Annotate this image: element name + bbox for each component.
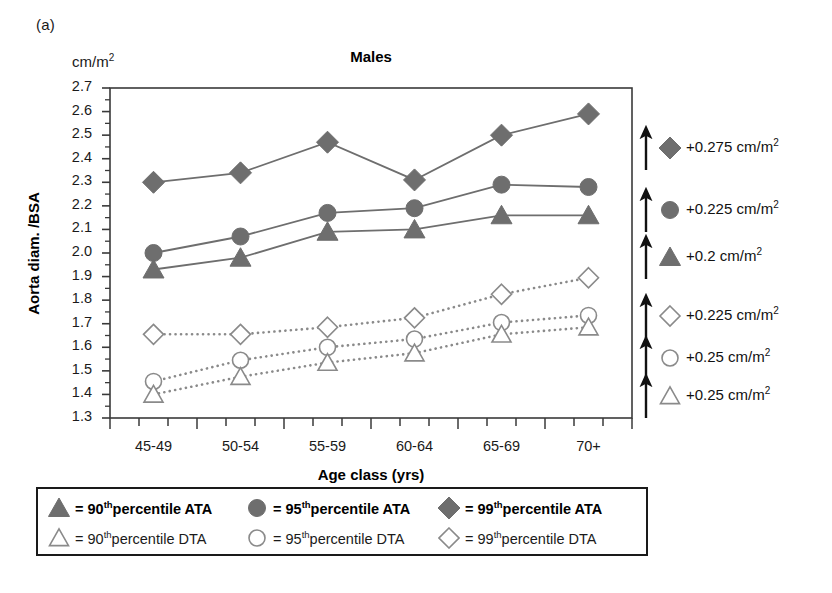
series-diamond-open xyxy=(144,268,599,345)
y-tick-label: 1.3 xyxy=(52,409,92,424)
y-tick-label: 2.3 xyxy=(52,173,92,188)
data-point-marker xyxy=(406,200,423,217)
legend-row-dta: = 90thpercentile DTA= 95thpercentile DTA… xyxy=(38,523,646,553)
annotation-label: +0.25 cm/m2 xyxy=(686,347,770,365)
x-tick-label: 55-59 xyxy=(283,438,373,454)
triangle-filled-glyph xyxy=(49,498,70,516)
diamond-open-glyph xyxy=(439,528,459,548)
series-line xyxy=(154,315,589,381)
y-tick-label: 2.2 xyxy=(52,197,92,212)
triangle-open-icon xyxy=(48,527,70,549)
legend-ordinal-suffix: th xyxy=(302,529,310,540)
annotation-arrows-layer xyxy=(646,132,681,418)
legend-percentile-number: 90 xyxy=(88,531,104,547)
annotation-marker-circle-filled xyxy=(662,202,679,219)
series-triangle-open xyxy=(144,318,598,402)
annotation-value: +0.225 cm/m xyxy=(686,306,773,323)
annotation-exponent: 2 xyxy=(773,305,779,316)
series-diamond-filled xyxy=(143,103,600,193)
y-tick-label: 2.4 xyxy=(52,150,92,165)
annotation-label: +0.2 cm/m2 xyxy=(686,246,762,264)
y-tick-label: 1.5 xyxy=(52,362,92,377)
legend-description: percentile ATA xyxy=(311,501,411,517)
data-point-marker xyxy=(230,248,251,266)
y-tick-label: 1.6 xyxy=(52,338,92,353)
annotation-marker-triangle-open xyxy=(661,387,680,404)
data-point-marker xyxy=(580,179,597,196)
data-point-marker xyxy=(231,368,250,385)
data-point-marker xyxy=(319,204,336,221)
legend-percentile-number: 95 xyxy=(286,501,302,517)
data-point-marker xyxy=(491,124,513,146)
y-tick-label: 2.0 xyxy=(52,244,92,259)
y-tick-label: 2.7 xyxy=(52,79,92,94)
data-point-marker xyxy=(232,228,249,245)
figure-root: (a) cm/m2 Males Aorta diam. /BSA Age cla… xyxy=(0,0,832,593)
x-tick-label: 60-64 xyxy=(370,438,460,454)
annotation-marker-triangle-filled xyxy=(660,247,681,265)
legend-description: percentile DTA xyxy=(502,531,597,547)
legend-ordinal-suffix: th xyxy=(494,499,503,510)
annotation-marker-diamond-filled xyxy=(659,137,681,159)
data-point-marker xyxy=(144,324,164,344)
annotation-3 xyxy=(646,300,680,338)
legend-ordinal-suffix: th xyxy=(104,499,113,510)
x-tick-label: 70+ xyxy=(544,438,634,454)
annotation-exponent: 2 xyxy=(765,347,771,358)
x-tick-label: 50-54 xyxy=(196,438,286,454)
circle-open-glyph xyxy=(249,530,265,546)
x-axis-ticks xyxy=(110,418,632,429)
circle-open-icon xyxy=(246,527,268,549)
annotation-5 xyxy=(646,380,680,418)
legend-equals: = xyxy=(75,531,88,547)
annotation-value: +0.25 cm/m xyxy=(686,386,765,403)
legend-item: = 95thpercentile ATA xyxy=(246,497,410,519)
legend-item: = 95thpercentile DTA xyxy=(246,527,404,549)
x-tick-label: 65-69 xyxy=(457,438,547,454)
data-point-marker xyxy=(578,103,600,125)
legend-description: percentile DTA xyxy=(112,531,207,547)
data-point-marker xyxy=(233,352,249,368)
y-axis-ticks xyxy=(102,88,110,418)
data-point-marker xyxy=(230,162,252,184)
legend-item: = 99thpercentile DTA xyxy=(438,527,596,549)
annotation-exponent: 2 xyxy=(773,137,779,148)
legend-item: = 99thpercentile ATA xyxy=(438,497,602,519)
data-point-marker xyxy=(317,131,339,153)
series-circle-open xyxy=(146,307,597,389)
x-tick-label: 45-49 xyxy=(109,438,199,454)
plot-frame xyxy=(110,88,632,418)
y-tick-label: 2.5 xyxy=(52,126,92,141)
legend-percentile-number: 99 xyxy=(478,531,494,547)
legend-percentile-number: 90 xyxy=(88,501,104,517)
legend-ordinal-suffix: th xyxy=(494,529,502,540)
diamond-filled-glyph xyxy=(438,497,460,519)
annotation-4 xyxy=(646,342,678,380)
annotation-marker-circle-open xyxy=(662,350,678,366)
legend-percentile-number: 95 xyxy=(286,531,302,547)
series-line xyxy=(154,278,589,335)
diamond-filled-icon xyxy=(438,497,460,519)
y-tick-label: 2.6 xyxy=(52,103,92,118)
triangle-open-glyph xyxy=(50,529,69,546)
annotation-exponent: 2 xyxy=(756,246,762,257)
data-point-marker xyxy=(231,324,251,344)
legend: = 90thpercentile ATA= 95thpercentile ATA… xyxy=(36,487,648,556)
data-point-marker xyxy=(405,344,424,361)
legend-equals: = xyxy=(465,531,478,547)
legend-item: = 90thpercentile DTA xyxy=(48,527,206,549)
series-line xyxy=(154,215,589,269)
legend-description: percentile ATA xyxy=(113,501,213,517)
circle-filled-icon xyxy=(246,497,268,519)
y-tick-label: 1.4 xyxy=(52,385,92,400)
annotation-value: +0.2 cm/m xyxy=(686,247,756,264)
annotation-marker-diamond-open xyxy=(660,306,680,326)
data-point-marker xyxy=(404,169,426,191)
legend-row-ata: = 90thpercentile ATA= 95thpercentile ATA… xyxy=(38,493,646,523)
series-circle-filled xyxy=(145,176,597,261)
annotation-label: +0.25 cm/m2 xyxy=(686,385,770,403)
legend-ordinal-suffix: th xyxy=(302,499,311,510)
data-point-marker xyxy=(318,354,337,371)
legend-description: percentile DTA xyxy=(310,531,405,547)
data-point-marker xyxy=(318,317,338,337)
